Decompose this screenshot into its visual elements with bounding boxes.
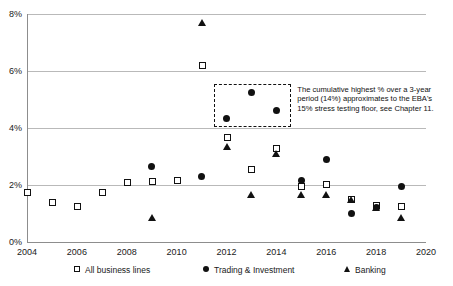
data-point-marker: [323, 156, 330, 163]
data-point-marker: [298, 177, 305, 184]
data-point-marker: [174, 177, 181, 184]
x-axis-tick-label: 2012: [207, 247, 247, 257]
gridline: [27, 14, 426, 15]
y-axis-tick-label: 4%: [9, 124, 22, 133]
data-point-marker: [247, 191, 255, 198]
x-axis-tick-label: 2014: [256, 247, 296, 257]
data-point-marker: [323, 181, 330, 188]
data-point-marker: [272, 150, 280, 157]
data-point-marker: [223, 143, 231, 150]
data-point-marker: [322, 191, 330, 198]
legend-item[interactable]: All business lines: [74, 264, 150, 276]
data-point-marker: [397, 214, 405, 221]
gridline: [27, 71, 426, 72]
data-point-marker: [74, 203, 81, 210]
x-axis-line: [27, 242, 426, 243]
x-axis-tick-label: 2018: [356, 247, 396, 257]
y-axis-tick-label: 8%: [9, 10, 22, 19]
x-axis-tick-label: 2006: [57, 247, 97, 257]
data-point-marker: [347, 196, 355, 203]
scatter-chart: 0%2%4%6%8% 20042006200820102012201420162…: [0, 0, 453, 286]
y-axis-tick-label: 6%: [9, 67, 22, 76]
data-point-marker: [398, 183, 405, 190]
callout-annotation-text: The cumulative highest % over a 3-year p…: [297, 85, 437, 114]
data-point-marker: [49, 199, 56, 206]
legend-item-label: All business lines: [85, 264, 150, 276]
x-axis-tick-label: 2016: [306, 247, 346, 257]
x-axis-tick-label: 2008: [107, 247, 147, 257]
legend-item[interactable]: Trading & Investment: [203, 264, 294, 276]
x-axis-tick-label: 2010: [157, 247, 197, 257]
gridline: [27, 185, 426, 186]
callout-dashed-box: [214, 84, 291, 127]
data-point-marker: [149, 178, 156, 185]
data-point-marker: [99, 189, 106, 196]
data-point-marker: [248, 166, 255, 173]
data-point-marker: [298, 183, 305, 190]
data-point-marker: [24, 189, 31, 196]
legend-item-label: Trading & Investment: [214, 264, 294, 276]
data-point-marker: [297, 191, 305, 198]
gridline: [27, 128, 426, 129]
legend-triangle-filled-icon: [344, 266, 350, 272]
data-point-marker: [198, 173, 205, 180]
legend-item[interactable]: Banking: [344, 264, 386, 276]
x-axis-tick-label: 2004: [7, 247, 47, 257]
data-point-marker: [372, 204, 380, 211]
y-axis-tick-label: 2%: [9, 181, 22, 190]
legend-square-open-icon: [74, 266, 80, 272]
x-axis-tick-label: 2020: [406, 247, 446, 257]
legend-circle-filled-icon: [203, 266, 209, 272]
data-point-marker: [124, 179, 131, 186]
data-point-marker: [198, 19, 206, 26]
legend-item-label: Banking: [355, 264, 386, 276]
y-axis-line: [27, 14, 28, 243]
chart-legend: All business linesTrading & InvestmentBa…: [0, 264, 453, 280]
data-point-marker: [148, 214, 156, 221]
y-axis-tick-label: 0%: [9, 238, 22, 247]
data-point-marker: [199, 62, 206, 69]
data-point-marker: [398, 203, 405, 210]
data-point-marker: [348, 210, 355, 217]
data-point-marker: [224, 134, 231, 141]
